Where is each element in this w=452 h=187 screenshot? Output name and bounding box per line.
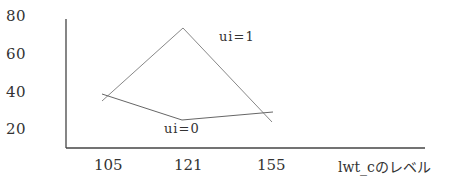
x-tick-121: 121	[174, 156, 203, 174]
x-tick-105: 105	[94, 156, 123, 174]
x-tick-155: 155	[257, 156, 286, 174]
series-label-ui1: ui=1	[219, 29, 255, 44]
series-line-ui0	[102, 94, 273, 120]
x-axis-title: lwt_cのレベル	[338, 156, 431, 176]
series-label-ui0: ui=0	[164, 121, 200, 136]
